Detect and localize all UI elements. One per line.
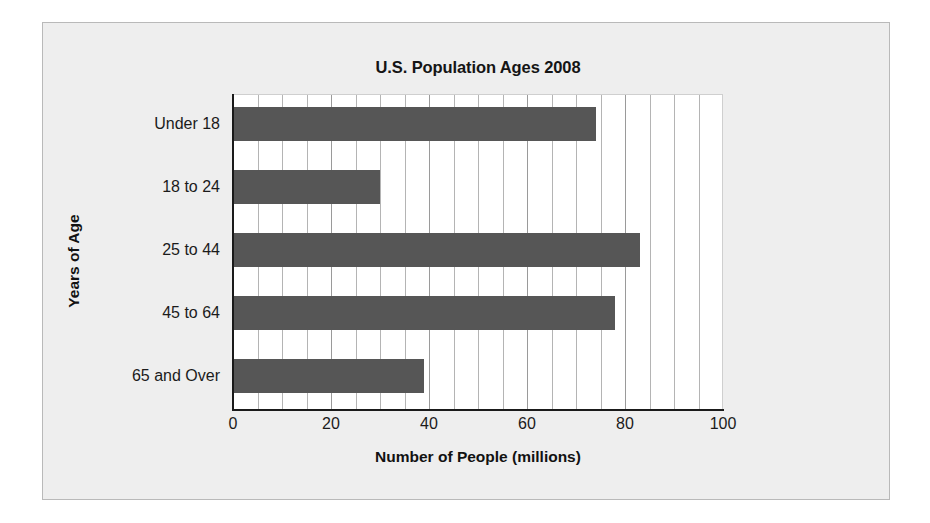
gridline-95 — [699, 95, 700, 410]
xtick-label-80: 80 — [595, 415, 655, 433]
xtick-label-0: 0 — [203, 415, 263, 433]
ytick-label-under-18: Under 18 — [88, 114, 220, 134]
gridline-90 — [674, 95, 675, 410]
plot-right-border — [722, 94, 723, 410]
ytick-label-18-to-24: 18 to 24 — [88, 177, 220, 197]
ytick-label-65-and-over: 65 and Over — [88, 366, 220, 386]
y-axis-title: Years of Age — [65, 181, 83, 341]
xtick-label-100: 100 — [693, 415, 753, 433]
bar-45-to-64[interactable] — [233, 296, 615, 330]
xtick-label-20: 20 — [301, 415, 361, 433]
plot-top-border — [233, 94, 723, 95]
bar-65-and-over[interactable] — [233, 359, 424, 393]
scanned-page: U.S. Population Ages 2008 Unde — [0, 0, 930, 523]
bar-under-18[interactable] — [233, 107, 596, 141]
xtick-label-60: 60 — [497, 415, 557, 433]
x-axis-title: Number of People (millions) — [233, 448, 723, 466]
ytick-label-25-to-44: 25 to 44 — [88, 240, 220, 260]
ytick-label-45-to-64: 45 to 64 — [88, 303, 220, 323]
bar-chart-figure: U.S. Population Ages 2008 Unde — [0, 0, 930, 523]
chart-title: U.S. Population Ages 2008 — [233, 58, 723, 77]
gridline-85 — [650, 95, 651, 410]
bar-18-to-24[interactable] — [233, 170, 380, 204]
x-axis-line — [232, 409, 724, 411]
bar-25-to-44[interactable] — [233, 233, 640, 267]
y-axis-line — [232, 94, 234, 411]
xtick-label-40: 40 — [399, 415, 459, 433]
